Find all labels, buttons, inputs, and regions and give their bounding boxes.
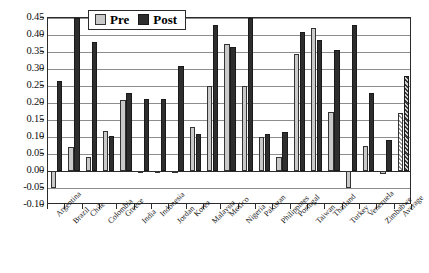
legend-swatch-post-icon	[138, 14, 149, 25]
x-tick-label: Brazil	[71, 205, 91, 225]
x-tick-label: Jordan	[175, 204, 196, 225]
x-tick-label: Chile	[88, 200, 107, 219]
x-tick-label: India	[140, 207, 158, 225]
legend-item-post: Post	[138, 13, 177, 26]
legend-item-pre: Pre	[95, 13, 129, 26]
x-axis-labels: ArgentinaBrazilChileColombiaGreeceIndiaI…	[0, 0, 429, 273]
bar-chart-figure: 0.450.400.350.300.250.200.150.100.050.00…	[0, 0, 429, 273]
x-tick-label: Korea	[192, 198, 212, 218]
chart-legend: Pre Post	[88, 10, 186, 30]
legend-label-pre: Pre	[110, 13, 129, 26]
legend-swatch-pre-icon	[95, 14, 106, 25]
legend-label-post: Post	[153, 13, 177, 26]
